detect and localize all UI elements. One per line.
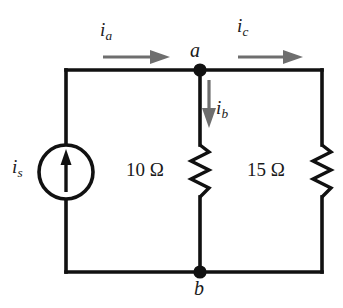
current-arrow-ib [202,80,216,128]
resistor-15-ohm-label: 15 Ω [247,160,285,179]
resistor-15-ohm-zigzag [313,145,331,197]
current-arrow-ic-head [283,50,303,64]
resistor-10-ohm-symbol [191,145,209,197]
node-label-a: a [190,40,200,60]
source-label-is-symbol: i [12,156,17,177]
current-label-ib-subscript: b [222,106,229,121]
current-label-ic-symbol: i [237,15,242,36]
current-label-ib-symbol: i [216,97,221,118]
node-label-b: b [194,278,204,298]
source-label-is-subscript: s [18,165,23,180]
resistor-10-ohm-zigzag [191,145,209,197]
current-label-ia-symbol: i [100,19,105,40]
current-arrow-ib-head [202,108,216,128]
circuit-schematic-canvas [0,0,343,308]
current-label-ia: ia [100,20,112,43]
resistor-15-ohm-symbol [313,145,331,197]
current-label-ic-subscript: c [243,24,249,39]
current-arrow-ia [103,50,170,64]
current-label-ia-subscript: a [106,28,113,43]
current-arrow-ic [238,50,303,64]
circuit-diagram: ia ib ic is a b 10 Ω 15 Ω [0,0,343,308]
current-label-ib: ib [216,98,228,121]
current-arrow-ia-head [150,50,170,64]
current-source-symbol [39,145,93,199]
node-dot-a [193,63,206,76]
source-label-is: is [12,157,23,180]
resistor-10-ohm-label: 10 Ω [126,160,164,179]
current-label-ic: ic [237,16,248,39]
